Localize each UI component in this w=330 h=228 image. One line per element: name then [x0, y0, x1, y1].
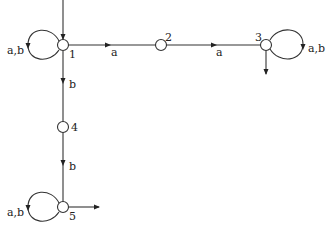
edge-label-1-4: b	[69, 78, 76, 91]
state-label-4: 4	[71, 121, 78, 134]
loop-label-5: a,b	[7, 206, 24, 219]
loop-arrow-5	[26, 205, 31, 211]
self-loop-3	[270, 30, 303, 59]
edge-label-1-2: a	[111, 46, 118, 59]
arrow-1-4	[61, 78, 66, 84]
loop-label-3: a,b	[308, 42, 325, 55]
self-loop-1	[28, 30, 59, 59]
state-label-5: 5	[69, 210, 76, 223]
state-label-1: 1	[69, 48, 76, 61]
arrow-4-5	[61, 160, 66, 166]
loop-label-1: a,b	[7, 44, 24, 57]
self-loop-5	[28, 192, 59, 221]
state-label-2: 2	[165, 31, 172, 44]
state-1	[58, 40, 69, 51]
edge-label-2-3: a	[216, 46, 223, 59]
automaton-diagram: 1 2 3 4 5 a,b a,b a,b a a b b	[0, 0, 330, 228]
state-label-3: 3	[255, 31, 262, 44]
state-4	[58, 122, 69, 133]
edge-label-4-5: b	[69, 160, 76, 173]
loop-arrow-3	[301, 44, 306, 50]
state-3	[261, 40, 272, 51]
state-5	[58, 202, 69, 213]
loop-arrow-1	[26, 43, 31, 49]
